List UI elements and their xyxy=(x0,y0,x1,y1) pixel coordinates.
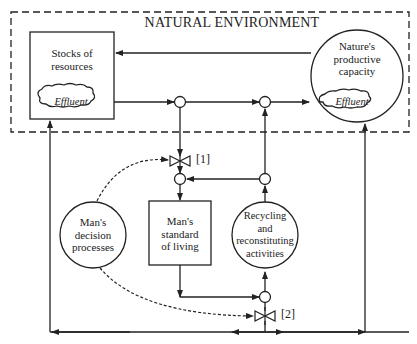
valve-1-label: [1] xyxy=(193,153,213,166)
recycling-label: Recycling and reconstituting activities xyxy=(230,210,300,260)
natural-environment-title: NATURAL ENVIRONMENT xyxy=(132,17,332,30)
valve-2-icon[interactable] xyxy=(255,307,275,325)
stocks-label: Stocks of resources xyxy=(30,47,114,72)
nature-label-line1: Nature's xyxy=(317,40,397,53)
nature-label-line2: productive xyxy=(317,53,397,66)
stocks-effluent-label: Effluent xyxy=(38,96,104,109)
decision-label: Man's decision processes xyxy=(60,216,126,254)
recycling-label-line1: Recycling xyxy=(230,210,300,223)
junction-node-5 xyxy=(260,292,271,303)
standard-label: Man's standard of living xyxy=(149,215,211,253)
diagram-canvas: NATURAL ENVIRONMENT Stocks of resources … xyxy=(0,0,417,344)
standard-label-line2: standard xyxy=(149,228,211,241)
valve-2-label: [2] xyxy=(278,308,298,321)
junction-node-1 xyxy=(175,97,186,108)
stocks-label-line1: Stocks of xyxy=(30,47,114,60)
decision-label-line3: processes xyxy=(60,241,126,254)
valve-1-icon[interactable] xyxy=(170,152,190,170)
recycling-label-line2: and xyxy=(230,223,300,236)
standard-label-line3: of living xyxy=(149,240,211,253)
recycling-label-line3: reconstituting xyxy=(230,235,300,248)
control-path-1 xyxy=(97,160,168,201)
junction-node-3 xyxy=(175,174,186,185)
junction-node-4 xyxy=(260,174,271,185)
standard-label-line1: Man's xyxy=(149,215,211,228)
junction-node-2 xyxy=(260,97,271,108)
decision-label-line1: Man's xyxy=(60,216,126,229)
nature-label: Nature's productive capacity xyxy=(317,40,397,78)
nature-effluent-label: Effluent xyxy=(322,96,382,109)
recycling-label-line4: activities xyxy=(230,248,300,261)
decision-label-line2: decision xyxy=(60,229,126,242)
stocks-label-line2: resources xyxy=(30,60,114,73)
nature-label-line3: capacity xyxy=(317,65,397,78)
control-path-2 xyxy=(100,268,253,316)
